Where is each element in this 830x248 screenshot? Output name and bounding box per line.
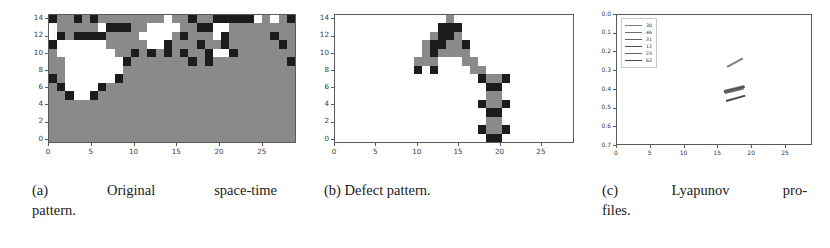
heatmap-cell [478, 74, 486, 83]
heatmap-cell [262, 66, 270, 75]
heatmap-cell [131, 23, 139, 32]
x-tick [334, 143, 335, 146]
heatmap-cell [246, 74, 254, 83]
caption-c-line2: files. [602, 200, 807, 220]
heatmap-cell [147, 108, 155, 117]
legend-label: 31 [646, 37, 652, 43]
y-tick-label: 14 [305, 13, 329, 22]
heatmap-cell [106, 15, 114, 24]
x-tick [219, 143, 220, 146]
heatmap-cell [229, 49, 237, 58]
heatmap-cell [90, 66, 98, 75]
heatmap-cell [131, 15, 139, 24]
heatmap-cell [270, 108, 278, 117]
heatmap-cell [180, 40, 188, 49]
y-tick [613, 89, 616, 90]
heatmap-cell [147, 57, 155, 66]
heatmap-cell [221, 15, 229, 24]
heatmap-cell [172, 15, 180, 24]
heatmap-cell [205, 74, 213, 83]
heatmap-cell [414, 66, 422, 75]
heatmap-cell [494, 134, 502, 143]
x-tick-label: 10 [122, 147, 146, 156]
heatmap-cell [486, 74, 494, 83]
heatmap-cell [430, 57, 438, 66]
legend-item[interactable]: 12 [625, 43, 652, 50]
heatmap-cell [164, 49, 172, 58]
heatmap-cell [270, 134, 278, 143]
legend-item[interactable]: 31 [625, 36, 652, 43]
heatmap-cell [205, 83, 213, 92]
x-tick-label: 5 [79, 147, 103, 156]
heatmap-cell [270, 83, 278, 92]
heatmap-cell [49, 125, 57, 134]
heatmap-cell [205, 57, 213, 66]
legend-swatch-icon [625, 53, 642, 54]
heatmap-cell [205, 66, 213, 75]
heatmap-cell [221, 134, 229, 143]
heatmap-cell [254, 32, 262, 41]
heatmap-cell [213, 32, 221, 41]
heatmap-cell [82, 74, 90, 83]
caption-b-line1: (b) Defect pattern. [324, 180, 574, 200]
heatmap-cell [246, 117, 254, 126]
heatmap-cell [57, 57, 65, 66]
x-tick-label: 10 [672, 149, 696, 156]
heatmap-cell [65, 32, 73, 41]
y-tick [613, 145, 616, 146]
y-tick [331, 104, 334, 105]
heatmap-cell [156, 83, 164, 92]
legend-item[interactable]: 30 [625, 22, 652, 29]
heatmap-cell [238, 83, 246, 92]
heatmap-cell [82, 134, 90, 143]
heatmap-cell [164, 23, 172, 32]
heatmap-cell [74, 91, 82, 100]
heatmap-cell [123, 57, 131, 66]
heatmap-cell [213, 66, 221, 75]
space-time-heatmap [49, 15, 295, 142]
heatmap-cell [188, 117, 196, 126]
heatmap-cell [98, 83, 106, 92]
caption-c: (c) Lyapunov pro- files. [602, 180, 807, 220]
legend-item[interactable]: 23 [625, 50, 652, 57]
heatmap-cell [213, 23, 221, 32]
heatmap-cell [49, 49, 57, 58]
heatmap-cell [90, 15, 98, 24]
y-tick-label: 12 [19, 30, 43, 39]
y-tick-label: 12 [305, 30, 329, 39]
y-tick [331, 36, 334, 37]
heatmap-cell [139, 23, 147, 32]
heatmap-cell [98, 57, 106, 66]
legend-item[interactable]: 46 [625, 29, 652, 36]
legend-label: 12 [646, 44, 652, 50]
heatmap-cell [156, 134, 164, 143]
heatmap-cell [98, 74, 106, 83]
heatmap-cell [106, 23, 114, 32]
y-tick-label: 8 [305, 65, 329, 74]
heatmap-cell [90, 117, 98, 126]
heatmap-cell [229, 134, 237, 143]
heatmap-cell [164, 91, 172, 100]
legend-item[interactable]: 62 [625, 57, 652, 64]
heatmap-cell [123, 134, 131, 143]
heatmap-cell [197, 83, 205, 92]
heatmap-cell [139, 91, 147, 100]
heatmap-cell [197, 117, 205, 126]
heatmap-cell [106, 57, 114, 66]
heatmap-cell [57, 32, 65, 41]
heatmap-cell [180, 108, 188, 117]
heatmap-cell [164, 57, 172, 66]
heatmap-cell [238, 49, 246, 58]
y-tick-label: 0.4 [587, 85, 611, 92]
y-tick-label: 0.0 [587, 10, 611, 17]
heatmap-cell [131, 117, 139, 126]
heatmap-cell [270, 32, 278, 41]
heatmap-cell [65, 66, 73, 75]
heatmap-cell [478, 66, 486, 75]
heatmap-cell [98, 49, 106, 58]
heatmap-cell [65, 15, 73, 24]
heatmap-cell [279, 83, 287, 92]
heatmap-cell [74, 100, 82, 109]
heatmap-cell [65, 40, 73, 49]
heatmap-cell [486, 134, 494, 143]
